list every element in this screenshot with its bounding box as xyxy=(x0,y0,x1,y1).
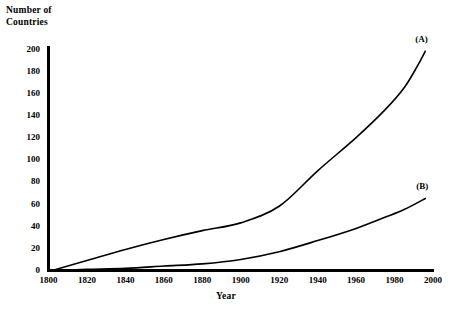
y-tick-label: 60 xyxy=(6,199,40,209)
y-tick-label: 120 xyxy=(6,132,40,142)
y-tick-label: 0 xyxy=(6,265,40,275)
x-tick-label: 1940 xyxy=(298,275,338,285)
x-tick-label: 1820 xyxy=(67,275,107,285)
chart-container: Number ofCountries (A) (B) Year 02040608… xyxy=(0,0,452,315)
x-tick-label: 1920 xyxy=(259,275,299,285)
series-line-a xyxy=(52,51,425,270)
x-axis-title: Year xyxy=(0,291,452,301)
series-label-b: (B) xyxy=(416,181,428,191)
x-tick-label: 1960 xyxy=(336,275,376,285)
x-tick-label: 2000 xyxy=(413,275,452,285)
series-line-b xyxy=(58,199,425,271)
x-tick-label: 1840 xyxy=(105,275,145,285)
x-tick-label: 1860 xyxy=(144,275,184,285)
y-tick-label: 80 xyxy=(6,176,40,186)
x-tick-label: 1880 xyxy=(182,275,222,285)
x-tick-label: 1900 xyxy=(221,275,261,285)
y-tick-label: 200 xyxy=(6,44,40,54)
x-tick-label: 1980 xyxy=(375,275,415,285)
plot-area xyxy=(0,0,452,315)
y-tick-label: 40 xyxy=(6,221,40,231)
series-label-a: (A) xyxy=(415,34,428,44)
y-tick-label: 140 xyxy=(6,110,40,120)
y-tick-label: 180 xyxy=(6,66,40,76)
y-tick-label: 20 xyxy=(6,243,40,253)
y-tick-label: 160 xyxy=(6,88,40,98)
y-tick-label: 100 xyxy=(6,154,40,164)
x-tick-label: 1800 xyxy=(29,275,69,285)
